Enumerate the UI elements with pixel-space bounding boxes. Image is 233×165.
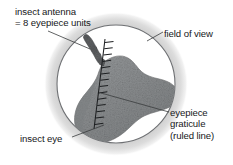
- label-eyepiece-graticule-line3: (ruled line): [170, 130, 214, 141]
- label-insect-antenna-line1: insect antenna: [15, 6, 91, 17]
- label-insect-eye: insect eye: [20, 133, 62, 144]
- label-insect-antenna: insect antenna = 8 eyepiece units: [15, 6, 91, 29]
- label-insect-antenna-line2: = 8 eyepiece units: [15, 17, 91, 28]
- label-field-of-view: field of view: [164, 28, 213, 39]
- eyepiece-graticule-figure: insect antenna = 8 eyepiece units field …: [0, 0, 233, 165]
- label-eyepiece-graticule: eyepiece graticule (ruled line): [170, 107, 214, 141]
- label-eyepiece-graticule-line2: graticule: [170, 118, 214, 129]
- label-eyepiece-graticule-line1: eyepiece: [170, 107, 214, 118]
